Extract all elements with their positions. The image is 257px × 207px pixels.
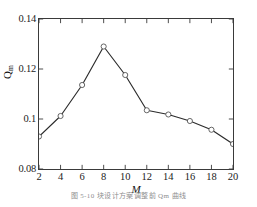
x-axis-tick-label: 6: [79, 172, 84, 183]
y-axis-tick-label: 0.12: [18, 64, 36, 75]
x-axis-tick-label: 20: [228, 172, 239, 183]
x-axis-tick-label: 16: [185, 172, 196, 183]
x-axis-tick-label: 14: [163, 172, 174, 183]
figure-caption: 图 5-10 块设计方案调整前 Qm 曲线: [0, 192, 257, 200]
y-axis-tick-label: 0.14: [18, 14, 36, 25]
x-axis-tick-label: 4: [58, 172, 63, 183]
data-point-marker: [209, 127, 214, 132]
chart-svg: [39, 19, 233, 169]
y-axis-title-subscript: m: [6, 65, 15, 71]
data-point-marker: [144, 108, 149, 113]
y-axis-tick-label: 0.1: [23, 114, 36, 125]
data-point-marker: [187, 118, 192, 123]
x-axis-tick-label: 10: [120, 172, 131, 183]
data-point-marker: [230, 141, 233, 146]
data-point-marker: [80, 82, 85, 87]
x-axis-tick-label: 8: [101, 172, 106, 183]
axis-ticks-group: [39, 19, 233, 169]
figure-container: 0.080.10.120.14 2468101214161820 Qm M 图 …: [0, 0, 257, 207]
y-axis-title-base: Q: [1, 71, 13, 79]
data-point-marker: [58, 113, 63, 118]
data-markers-group: [39, 44, 233, 147]
y-axis-tick-label: 0.08: [18, 164, 36, 175]
data-point-marker: [123, 72, 128, 77]
data-point-marker: [39, 134, 42, 139]
chart-plot-area: 0.080.10.120.14 2468101214161820: [38, 18, 234, 170]
data-point-marker: [101, 44, 106, 49]
x-axis-tick-label: 18: [206, 172, 217, 183]
y-axis-title: Qm: [2, 65, 14, 79]
data-point-marker: [166, 112, 171, 117]
x-axis-tick-label: 12: [142, 172, 153, 183]
data-line: [39, 47, 233, 145]
x-axis-tick-label: 2: [36, 172, 41, 183]
